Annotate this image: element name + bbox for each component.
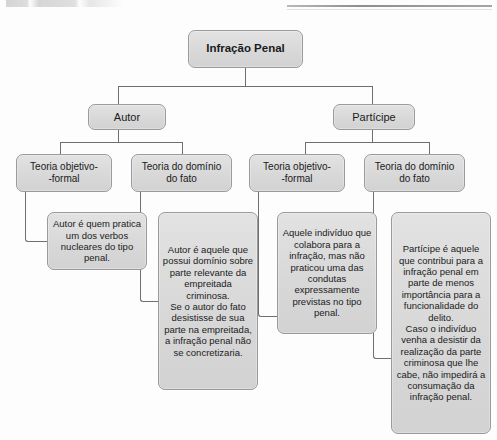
connector-root-to-autor	[118, 86, 119, 104]
connector-participe-bus	[305, 142, 429, 143]
connector-participe-stem	[372, 130, 373, 142]
connector-autor-stem	[118, 130, 119, 142]
header-rule-shadow	[287, 9, 492, 10]
connector-leaf-participe-objetivo-formal	[258, 192, 278, 317]
leaf-autor-teoria-dominio-do-fato-description[interactable]: Autor é aquele que possui domínio sobre …	[158, 212, 258, 390]
node-participe[interactable]: Partícipe	[333, 104, 415, 130]
node-participe-teoria-objetivo-formal[interactable]: Teoria objetivo- -formal	[249, 154, 345, 192]
connector-participe-to-objetivo-formal	[305, 142, 306, 154]
leaf-participe-teoria-dominio-do-fato-description[interactable]: Partícipe é aquele que contribui para a …	[391, 212, 491, 434]
scanned-header-text-fragment	[6, 0, 156, 7]
leaf-autor-teoria-objetivo-formal-description[interactable]: Autor é quem pratica um dos verbos nucle…	[47, 212, 147, 270]
leaf-participe-teoria-objetivo-formal-description[interactable]: Aquele indivíduo que colabora para a inf…	[277, 212, 377, 334]
connector-autor-to-dominio-fato	[182, 142, 183, 154]
node-autor[interactable]: Autor	[88, 104, 166, 130]
node-participe-teoria-dominio-do-fato[interactable]: Teoria do domínio do fato	[364, 154, 465, 192]
connector-autor-bus	[60, 142, 182, 143]
connector-autor-to-objetivo-formal	[60, 142, 61, 154]
node-infracao-penal[interactable]: Infração Penal	[188, 30, 303, 68]
node-autor-teoria-objetivo-formal[interactable]: Teoria objetivo- -formal	[16, 154, 112, 192]
connector-participe-to-dominio-fato	[429, 142, 430, 154]
connector-leaf-autor-objetivo-formal	[25, 192, 48, 242]
header-rule	[287, 5, 492, 7]
connector-root-bus	[118, 86, 372, 87]
node-autor-teoria-dominio-do-fato[interactable]: Teoria do domínio do fato	[131, 154, 232, 192]
diagram-page: Infração Penal Autor Partícipe Teoria ob…	[0, 0, 497, 440]
connector-root-stem	[245, 68, 246, 86]
connector-root-to-participe	[372, 86, 373, 104]
